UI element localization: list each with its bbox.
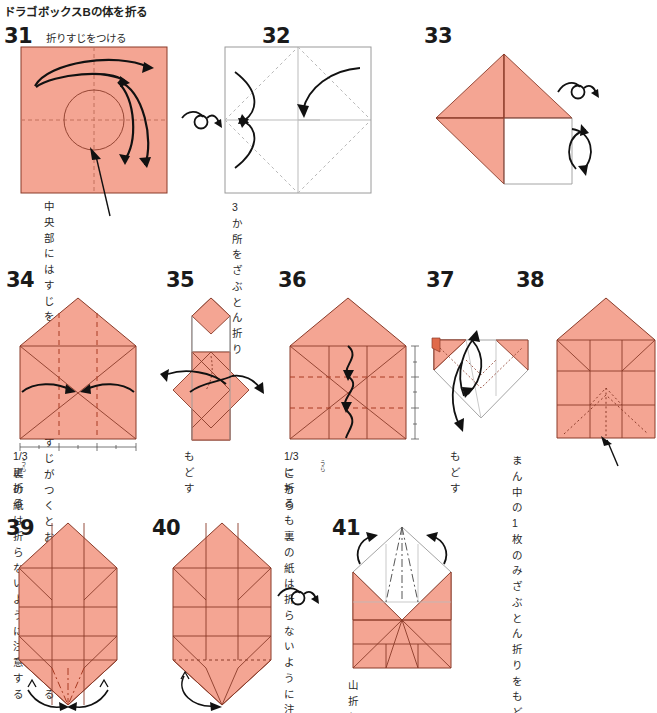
- step-37-caption: もどす: [450, 449, 460, 496]
- figure-step-41: [350, 528, 454, 673]
- rotate-arrow-33: [556, 122, 602, 180]
- page-title: ドラゴボックスBの体を折る: [4, 3, 147, 19]
- figure-step-36: [288, 296, 408, 444]
- step-number-38: 38: [516, 270, 544, 291]
- figure-step-37: [424, 300, 539, 442]
- figure-step-40: [170, 520, 274, 710]
- figure-step-39: [16, 520, 120, 710]
- figure-step-32: [224, 46, 372, 194]
- step-number-35: 35: [166, 270, 194, 291]
- step-41-caption: 山折りの 折りすじをつける: [348, 678, 358, 713]
- step-number-34: 34: [6, 270, 34, 291]
- turn-over-arrow-40-41: [276, 584, 322, 614]
- step-35-caption: もどす: [184, 449, 194, 496]
- figure-step-38: [554, 296, 657, 444]
- step-number-31: 31: [4, 26, 32, 47]
- step-number-36: 36: [278, 270, 306, 291]
- figure-step-33: [412, 50, 552, 190]
- step-36-ruby: うら: [320, 461, 326, 472]
- figure-step-34: [18, 296, 138, 444]
- step-number-33: 33: [424, 26, 452, 47]
- turn-over-arrow-31-32: [180, 108, 226, 138]
- turn-over-arrow-33: [556, 78, 602, 108]
- step-31-heading: 折りすじをつける: [46, 31, 126, 45]
- step-number-32: 32: [262, 26, 290, 47]
- step-number-37: 37: [426, 270, 454, 291]
- step-38-caption: まん中の1枚のみ ざぶとん折りをもどす: [512, 453, 522, 713]
- figure-step-35: [166, 296, 266, 442]
- figure-step-31: [20, 46, 168, 194]
